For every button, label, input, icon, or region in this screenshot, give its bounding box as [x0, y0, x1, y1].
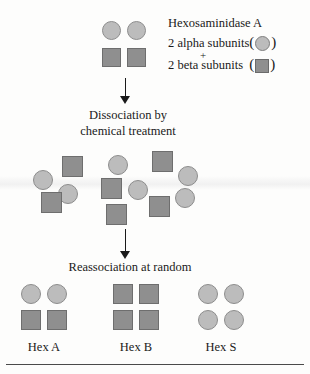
- alpha-subunit-circle: [198, 310, 218, 330]
- legend-alpha-label: 2 alpha subunits: [168, 36, 249, 50]
- free-alpha-subunit: [33, 170, 53, 190]
- hex-b-label: Hex B: [101, 340, 171, 355]
- legend-beta-row: 2 beta subunits (): [150, 54, 310, 76]
- alpha-subunit-circle: [224, 284, 244, 304]
- beta-subunit-square: [113, 310, 133, 330]
- alpha-subunit-circle: [21, 284, 41, 304]
- free-beta-subunit: [106, 204, 127, 225]
- free-beta-subunit: [41, 192, 62, 213]
- caption-reassociation-line1: Reassociation at random: [35, 260, 225, 276]
- hex-s-label: Hex S: [186, 340, 256, 355]
- legend-open-paren: (: [249, 34, 254, 50]
- free-beta-subunit: [62, 156, 83, 177]
- arrow-dissociation: [120, 78, 131, 104]
- alpha-subunit-circle: [224, 310, 244, 330]
- circle-subunit-icon: [255, 36, 270, 51]
- alpha-subunit-circle: [102, 21, 121, 40]
- beta-subunit-square: [47, 310, 67, 330]
- square-subunit-icon: [255, 59, 269, 73]
- alpha-subunit-circle: [198, 284, 218, 304]
- beta-subunit-square: [139, 310, 159, 330]
- caption-dissociation-line2: chemical treatment: [48, 124, 208, 140]
- hex-a-label: Hex A: [9, 340, 79, 355]
- caption-dissociation: Dissociation by chemical treatment: [48, 108, 208, 139]
- alpha-subunit-circle: [127, 21, 146, 40]
- arrow-shaft: [125, 78, 126, 97]
- legend-alpha-row: 2 alpha subunits(): [150, 32, 310, 54]
- legend-close-paren: ): [271, 34, 276, 50]
- caption-dissociation-line1: Dissociation by: [48, 108, 208, 124]
- legend-open-paren: (: [249, 56, 254, 72]
- legend-heading: Hexosaminidase A: [150, 14, 310, 32]
- hexosaminidase-diagram: Hexosaminidase A 2 alpha subunits() 2 be…: [0, 0, 310, 374]
- beta-subunit-square: [102, 48, 121, 67]
- free-beta-subunit: [101, 178, 122, 199]
- beta-subunit-square: [139, 284, 159, 304]
- arrow-head: [120, 251, 130, 259]
- free-alpha-subunit: [175, 188, 195, 208]
- arrow-reassociation: [120, 229, 131, 259]
- beta-subunit-square: [127, 48, 146, 67]
- beta-subunit-square: [21, 310, 41, 330]
- arrow-head: [120, 96, 130, 104]
- free-beta-subunit: [149, 196, 170, 217]
- free-beta-subunit: [152, 151, 173, 172]
- beta-subunit-square: [113, 284, 133, 304]
- legend-close-paren: ): [270, 56, 275, 72]
- legend-plus-sign: +: [200, 50, 206, 61]
- alpha-subunit-circle: [47, 284, 67, 304]
- free-alpha-subunit: [178, 166, 198, 186]
- caption-reassociation: Reassociation at random: [35, 260, 225, 276]
- legend: Hexosaminidase A 2 alpha subunits() 2 be…: [150, 14, 310, 76]
- bottom-rule: [6, 364, 304, 365]
- arrow-shaft: [125, 229, 126, 252]
- free-alpha-subunit: [128, 180, 148, 200]
- free-alpha-subunit: [108, 155, 128, 175]
